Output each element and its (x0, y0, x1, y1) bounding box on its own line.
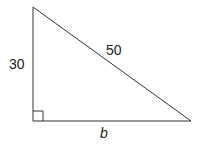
vertical-leg-label: 30 (9, 57, 25, 71)
right-angle-marker (33, 111, 43, 121)
horizontal-leg-label: b (100, 126, 108, 140)
hypotenuse-label: 50 (106, 43, 122, 57)
right-triangle (33, 7, 191, 121)
